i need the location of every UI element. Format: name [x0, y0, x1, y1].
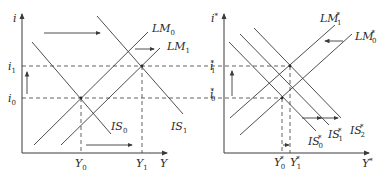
lm1-star-label: LM*1 [319, 11, 342, 27]
lm0-label: LM0 [151, 22, 175, 37]
equilibrium-star-point-0 [281, 97, 284, 100]
left-panel: i Y i1 i0 Y0 Y1 LM0 LM1 IS0 IS1 [8, 12, 190, 172]
y0-star-label: Y*0 [274, 155, 285, 171]
lm1-star-curve [230, 25, 335, 118]
left-y-axis-label: i [13, 12, 17, 25]
equilibrium-star-point-1 [289, 65, 292, 68]
right-y-axis-label: i* [211, 12, 219, 25]
right-x-axis-label: Y* [362, 157, 373, 170]
is0-star-label: IS*0 [307, 134, 323, 150]
is0-label: IS0 [110, 120, 127, 135]
i1-label: i1 [8, 60, 16, 75]
i1-star-label: i*1 [210, 59, 216, 75]
is2-star-curve [254, 28, 341, 118]
is1-label: IS1 [170, 120, 187, 135]
is-lm-diagram: i Y i1 i0 Y0 Y1 LM0 LM1 IS0 IS1 [0, 0, 382, 179]
left-x-axis-label: Y [160, 157, 169, 170]
lm1-label: LM1 [166, 40, 190, 55]
is0-curve [32, 42, 111, 134]
lm0-star-label: LM*0 [354, 29, 377, 45]
is2-star-label: IS*2 [349, 123, 365, 139]
equilibrium-point-1 [141, 65, 144, 68]
y1-label: Y1 [136, 157, 148, 172]
lm0-curve [34, 32, 148, 145]
y1-star-label: Y*1 [290, 155, 301, 171]
i0-label: i0 [8, 92, 16, 107]
is1-star-curve [240, 34, 329, 125]
is1-star-label: IS*1 [327, 127, 343, 143]
y0-label: Y0 [75, 157, 87, 172]
equilibrium-point-0 [80, 97, 83, 100]
right-panel: i* Y* i*1 i*0 Y*0 Y*1 LM*1 LM*0 IS*0 IS*… [190, 11, 377, 171]
i0-star-label: i*0 [210, 87, 216, 103]
lm0-star-curve [240, 34, 352, 135]
